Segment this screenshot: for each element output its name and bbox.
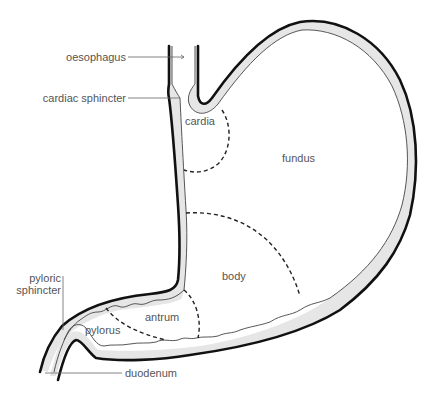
- stomach-diagram: oesophagus cardiac sphincter cardia fund…: [0, 0, 423, 404]
- label-pyloric-sphincter-line2: sphincter: [16, 284, 61, 296]
- label-oesophagus: oesophagus: [66, 51, 126, 63]
- label-pylorus: pylorus: [85, 324, 121, 336]
- greater-curvature-wall: [50, 21, 416, 376]
- label-cardia: cardia: [185, 115, 216, 127]
- label-cardiac-sphincter: cardiac sphincter: [43, 92, 126, 104]
- antrum-boundary: [184, 290, 199, 338]
- label-antrum: antrum: [145, 311, 179, 323]
- label-body: body: [222, 270, 246, 282]
- label-duodenum: duodenum: [125, 367, 177, 379]
- label-pyloric-sphincter-line1: pyloric: [29, 272, 61, 284]
- label-fundus: fundus: [282, 152, 316, 164]
- body-boundary: [186, 213, 300, 296]
